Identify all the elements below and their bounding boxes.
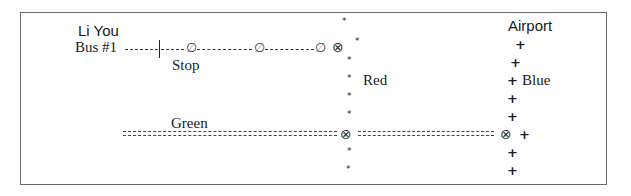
red-line-label: Red	[363, 73, 387, 88]
interchange-icon: ⊗	[332, 40, 344, 54]
bus-stop-icon: ∅	[254, 41, 265, 54]
interchange-icon: ⊗	[340, 127, 352, 141]
blue-line-plus-icon: +	[507, 74, 518, 87]
airport-label: Airport	[508, 18, 552, 33]
blue-line-plus-icon: +	[510, 56, 521, 69]
bus-route-segment	[125, 49, 158, 50]
red-line-star-icon: *	[342, 17, 347, 26]
bus-route-segment	[265, 49, 314, 50]
bus-label: Bus #1	[75, 40, 117, 55]
blue-line-plus-icon: +	[515, 38, 526, 51]
red-line-star-icon: *	[347, 56, 352, 65]
green-line-segment	[358, 131, 494, 136]
bus-route-segment	[197, 49, 252, 50]
green-line-segment	[123, 131, 337, 136]
blue-line-plus-icon: +	[507, 146, 518, 159]
bus-route-segment	[161, 49, 184, 50]
red-line-star-icon: *	[347, 92, 352, 101]
stop-label: Stop	[172, 58, 200, 73]
red-line-star-icon: *	[355, 37, 360, 46]
blue-line-label: Blue	[522, 73, 550, 88]
blue-line-plus-icon: +	[507, 110, 518, 123]
blue-line-plus-icon: +	[519, 128, 530, 141]
green-line-label: Green	[171, 116, 208, 131]
stop-tick-mark	[159, 40, 160, 58]
red-line-star-icon: *	[347, 147, 352, 156]
bus-stop-icon: ∅	[315, 41, 326, 54]
blue-line-plus-icon: +	[507, 164, 518, 177]
red-line-star-icon: *	[347, 74, 352, 83]
bus-stop-icon: ∅	[186, 41, 197, 54]
rider-name-label: Li You	[78, 23, 119, 38]
red-line-star-icon: *	[347, 110, 352, 119]
blue-line-plus-icon: +	[507, 92, 518, 105]
interchange-icon: ⊗	[500, 127, 512, 141]
red-line-star-icon: *	[346, 165, 351, 174]
